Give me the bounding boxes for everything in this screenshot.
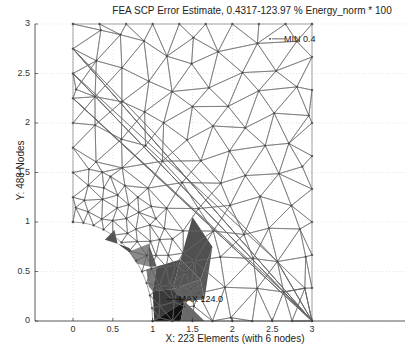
mesh-element: [73, 169, 89, 185]
x-tick-label: 2: [217, 324, 247, 334]
mesh-element: [253, 258, 277, 288]
mesh-element: [113, 219, 128, 234]
mesh-element: [126, 212, 138, 229]
mesh-element: [289, 123, 312, 156]
mesh-element: [245, 91, 274, 128]
x-tick-label: 1.5: [178, 324, 208, 334]
mesh-element: [120, 35, 144, 68]
mesh-element: [156, 240, 168, 256]
mesh-element: [167, 24, 193, 56]
mesh-element: [73, 148, 96, 169]
mesh-element: [213, 205, 244, 234]
mesh-element: [257, 41, 296, 71]
mesh-element: [122, 81, 149, 112]
x-tick-label: 3: [297, 324, 327, 334]
mesh-element: [73, 24, 101, 49]
mesh-element: [144, 41, 167, 81]
x-tick-label: 0.5: [98, 324, 128, 334]
mesh-element: [167, 38, 193, 64]
mesh-element: [229, 128, 265, 151]
mesh-element: [252, 288, 272, 321]
mesh-element: [201, 126, 230, 161]
mesh-element: [269, 206, 300, 229]
mesh-element: [245, 146, 279, 176]
mesh-element: [73, 61, 96, 90]
mesh-element: [276, 57, 312, 87]
mesh-element: [231, 288, 257, 321]
mesh-element: [122, 68, 149, 102]
x-tick-label: 1: [138, 324, 168, 334]
high-error-element: [105, 230, 118, 244]
mesh-element: [88, 172, 104, 188]
mesh-element: [274, 113, 309, 143]
mesh-element: [206, 24, 233, 52]
mesh-plot-area: MIN 0.4MAX 124.0: [0, 0, 414, 349]
mesh-element: [138, 188, 151, 206]
min-annotation: MIN 0.4: [284, 34, 316, 44]
mesh-element: [73, 125, 96, 162]
mesh-element: [257, 288, 284, 321]
mesh-element: [193, 24, 218, 52]
mesh-element: [277, 262, 304, 292]
mesh-element: [164, 229, 183, 239]
mesh-element: [126, 205, 138, 219]
mesh-element: [129, 197, 139, 212]
mesh-element: [245, 174, 279, 197]
y-tick-label: 2.5: [2, 68, 30, 78]
mesh-element: [120, 24, 144, 41]
y-tick-label: 0: [2, 315, 30, 325]
mesh-element: [259, 71, 297, 91]
mesh-element: [305, 257, 312, 288]
mesh-element: [291, 206, 312, 229]
mesh-element: [279, 174, 312, 206]
mesh-element: [182, 183, 221, 209]
mesh-element: [277, 229, 305, 262]
y-tick-label: 3: [2, 18, 30, 28]
mesh-element: [269, 228, 300, 261]
mesh-element: [136, 225, 150, 241]
mesh-element: [209, 52, 242, 88]
mesh-element: [88, 199, 102, 219]
mesh-element: [289, 143, 312, 166]
mesh-element: [136, 212, 150, 229]
mesh-element: [121, 112, 145, 146]
mesh-element: [218, 24, 257, 52]
mesh-element: [126, 24, 153, 41]
mesh-element: [276, 41, 312, 71]
mesh-element: [213, 106, 245, 127]
mesh-element: [221, 151, 246, 183]
mesh-element: [172, 231, 183, 253]
y-tick-label: 1.5: [2, 167, 30, 177]
mesh-element: [121, 102, 144, 140]
mesh-element: [265, 143, 289, 173]
mesh-element: [291, 189, 312, 222]
mesh-element: [300, 229, 312, 257]
x-tick-label: 0: [58, 324, 88, 334]
mesh-element: [125, 186, 148, 198]
mesh-element: [167, 56, 192, 91]
mesh-element: [73, 30, 101, 61]
y-tick-label: 1: [2, 216, 30, 226]
mesh-element: [139, 212, 156, 225]
mesh-element: [187, 126, 213, 161]
mesh-element: [153, 24, 180, 56]
mesh-element: [84, 185, 102, 200]
mesh-element: [162, 123, 187, 161]
mesh-element: [168, 239, 183, 255]
mesh-element: [172, 88, 209, 107]
mesh-element: [228, 73, 259, 107]
mesh-element: [213, 126, 245, 151]
mesh-element: [73, 185, 88, 200]
mesh-element: [126, 219, 136, 234]
fea-error-plot: FEA SCP Error Estimate, 0.4317-123.97 % …: [0, 0, 414, 349]
mesh-element: [96, 35, 121, 68]
mesh-element: [102, 219, 113, 229]
mesh-element: [242, 43, 276, 72]
mesh-element: [104, 177, 118, 196]
mesh-element: [100, 24, 121, 35]
mesh-element: [95, 102, 122, 140]
mesh-element: [172, 64, 209, 92]
y-tick-label: 2: [2, 117, 30, 127]
mesh-element: [279, 143, 302, 173]
mesh-element: [289, 116, 312, 144]
